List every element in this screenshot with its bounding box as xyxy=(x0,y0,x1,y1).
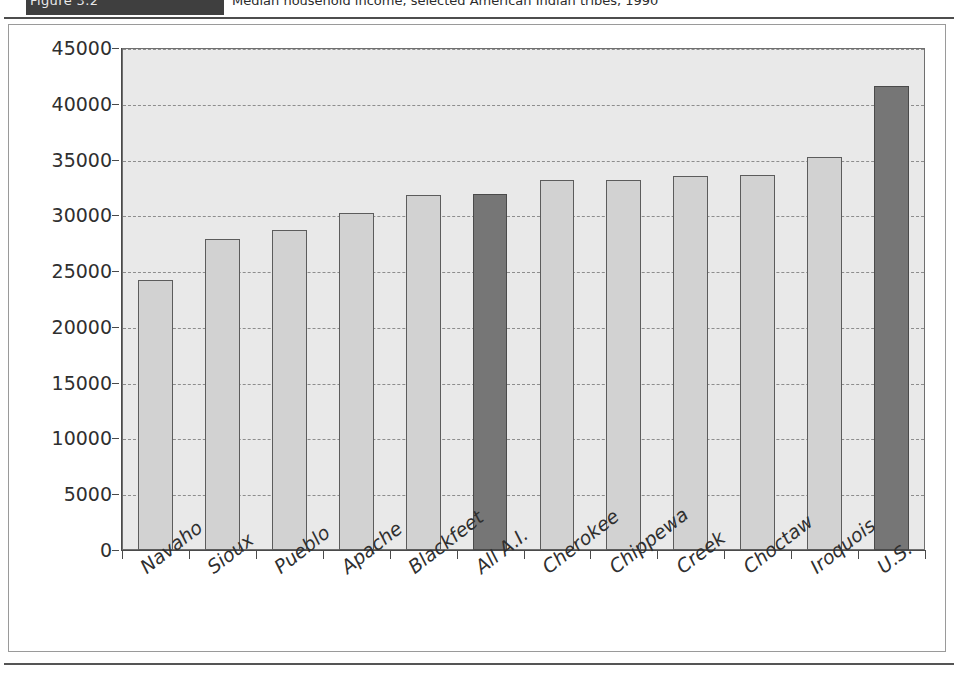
x-axis-tick xyxy=(323,551,324,559)
y-axis-tick xyxy=(112,160,119,161)
y-axis-tick xyxy=(112,271,119,272)
y-axis-tick-label: 40000 xyxy=(2,95,112,114)
x-axis-tick xyxy=(925,551,926,559)
bar xyxy=(138,280,173,550)
x-axis-tick xyxy=(189,551,190,559)
bar xyxy=(272,230,307,550)
y-axis-tick xyxy=(112,494,119,495)
y-axis-tick xyxy=(112,48,119,49)
bar xyxy=(807,157,842,550)
x-axis-category-labels: NavahoSiouxPuebloApacheBlackfeetAll A.I.… xyxy=(122,562,925,657)
top-rule xyxy=(4,17,954,19)
bar xyxy=(339,213,374,550)
bar xyxy=(606,180,641,550)
y-axis-labels: 0500010000150002000025000300003500040000… xyxy=(0,48,112,550)
bar-series xyxy=(122,48,925,550)
x-axis-tick xyxy=(256,551,257,559)
x-axis-tick xyxy=(858,551,859,559)
y-axis-tick xyxy=(112,215,119,216)
bar xyxy=(473,194,508,550)
y-axis-tick xyxy=(112,327,119,328)
y-axis-tick-label: 10000 xyxy=(2,429,112,448)
bar xyxy=(673,176,708,550)
y-axis-tick-label: 5000 xyxy=(2,485,112,504)
figure-number-text: Figure 3.2 xyxy=(30,0,224,7)
y-axis-tick-label: 20000 xyxy=(2,318,112,337)
bar xyxy=(540,180,575,550)
figure-number-highlight: Figure 3.2 xyxy=(26,0,224,15)
x-axis-tick xyxy=(524,551,525,559)
x-axis-tick xyxy=(590,551,591,559)
bar xyxy=(406,195,441,550)
bar-chart: 0500010000150002000025000300003500040000… xyxy=(0,22,959,662)
y-axis-tick xyxy=(112,550,119,551)
y-axis-tick-label: 0 xyxy=(2,541,112,560)
x-axis-tick xyxy=(122,551,123,559)
figure-caption-text: Median household income, selected Americ… xyxy=(232,0,932,7)
x-axis-tick xyxy=(724,551,725,559)
bottom-rule xyxy=(4,663,954,665)
x-axis-tick xyxy=(791,551,792,559)
y-axis-tick xyxy=(112,383,119,384)
x-axis-tick xyxy=(457,551,458,559)
bar xyxy=(740,175,775,550)
x-axis-tick xyxy=(657,551,658,559)
y-axis-tick-label: 45000 xyxy=(2,39,112,58)
y-axis-tick-label: 35000 xyxy=(2,151,112,170)
bar xyxy=(205,239,240,550)
y-axis-tick xyxy=(112,104,119,105)
y-axis-tick-label: 25000 xyxy=(2,262,112,281)
y-axis-tick-label: 15000 xyxy=(2,374,112,393)
y-axis-tick-label: 30000 xyxy=(2,206,112,225)
y-axis-tick xyxy=(112,438,119,439)
bar xyxy=(874,86,909,550)
scanned-page: Figure 3.2 Median household income, sele… xyxy=(0,0,959,683)
figure-caption: Median household income, selected Americ… xyxy=(232,0,932,14)
x-axis-tick xyxy=(390,551,391,559)
